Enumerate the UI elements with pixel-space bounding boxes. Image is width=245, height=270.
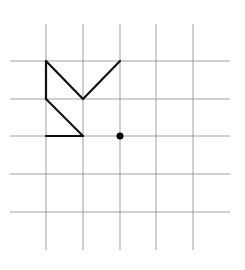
- center-point: [117, 133, 124, 140]
- figure-segment: [83, 61, 120, 99]
- figure-segment: [46, 99, 83, 136]
- figure-segment: [46, 61, 83, 99]
- grid-diagram: [0, 0, 245, 270]
